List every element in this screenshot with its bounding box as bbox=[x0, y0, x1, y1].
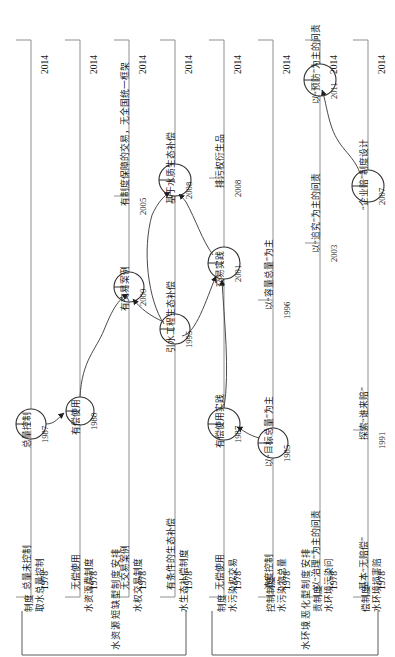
start-label-lane-6: 以“治理”为主的问责 bbox=[312, 510, 321, 590]
event-label-lane-7-0: 探索“谁来赔” bbox=[360, 387, 369, 440]
event-year-2003-lane-6: 2003 bbox=[330, 245, 339, 262]
bracket-group-0 bbox=[22, 611, 186, 655]
event-year-1987-lane-0: 1987 bbox=[41, 426, 50, 443]
end-year-lane-1: 2014 bbox=[90, 55, 100, 74]
event-year-1985-lane-5: 1985 bbox=[283, 445, 292, 462]
event-label-lane-6-1: 以“预防”为主的问责 bbox=[312, 24, 321, 104]
event-label-lane-4-1: 交易实践 bbox=[216, 251, 225, 287]
event-label-lane-0-0: 总量控制 bbox=[23, 412, 32, 448]
group-label-0: 水资源短缺型制度安排 bbox=[112, 548, 121, 650]
end-year-lane-2: 2014 bbox=[139, 55, 149, 74]
event-label-lane-4-2: 排污权衍生品 bbox=[216, 134, 225, 188]
end-year-lane-7: 2014 bbox=[378, 55, 388, 74]
event-year-2008-lane-3: 2008 bbox=[185, 182, 194, 199]
start-label-lane-1: 无偿使用 bbox=[72, 554, 81, 590]
event-label-lane-4-0: 有偿使用实践 bbox=[216, 394, 225, 448]
event-year-2005-lane-2: 2005 bbox=[139, 198, 148, 215]
event-year-2007-lane-7: 2007 bbox=[378, 188, 387, 205]
row-name-line2-lane-4: 制度 bbox=[218, 594, 227, 612]
row-name-line1-lane-4: 水污染权交易 bbox=[229, 558, 238, 612]
start-label-lane-4: 无偿使用 bbox=[216, 554, 225, 590]
event-year-2008-lane-4: 2008 bbox=[234, 180, 243, 197]
row-name-line1-lane-0: 取水总量控制 bbox=[36, 558, 45, 612]
event-year-1996-lane-5: 1996 bbox=[283, 302, 292, 319]
timeline-diagram: 20141978总量未控制1987总量控制取水总量控制制度20141978无偿使… bbox=[0, 0, 395, 657]
group-label-1: 水环境恶化型制度安排 bbox=[302, 548, 311, 650]
end-year-lane-0: 2014 bbox=[41, 55, 51, 74]
event-label-lane-7-1: “企业赔”制度设计 bbox=[360, 139, 369, 210]
start-label-lane-2: 无交易案例 bbox=[121, 545, 130, 590]
event-label-lane-2-0: 有交易案例 bbox=[121, 266, 130, 311]
event-label-lane-2-1: 有制度保障的交易，无全国统一框架 bbox=[121, 62, 130, 206]
bracket-group-1 bbox=[212, 611, 378, 655]
event-year-1988-lane-1: 1988 bbox=[90, 413, 99, 430]
event-year-2000-lane-2: 2000 bbox=[139, 289, 148, 306]
event-year-1991-lane-7: 1991 bbox=[378, 432, 387, 449]
row-name-line1-lane-2: 水权交易制度 bbox=[134, 558, 143, 612]
row-name-line1-lane-3: 水生态补偿制度 bbox=[180, 549, 189, 612]
end-year-lane-4: 2014 bbox=[234, 55, 244, 74]
event-year-1995-lane-3: 1995 bbox=[185, 331, 194, 348]
row-name-line1-lane-1: 水资源费制度 bbox=[85, 558, 94, 612]
row-name-line1-lane-5: 水污染物总量 bbox=[278, 558, 287, 612]
end-year-lane-3: 2014 bbox=[185, 55, 195, 74]
event-year-1987-lane-4: 1987 bbox=[234, 426, 243, 443]
event-label-lane-5-0: 以“目标总量”为主 bbox=[265, 396, 274, 467]
start-label-lane-7: 基本“无赔偿” bbox=[360, 537, 369, 590]
row-name-line1-lane-6: 水环境污染问 bbox=[325, 558, 334, 612]
row-name-line2-lane-0: 制度 bbox=[25, 594, 34, 612]
event-label-lane-1-0: 有偿使用 bbox=[72, 399, 81, 435]
end-year-lane-5: 2014 bbox=[283, 55, 293, 74]
start-label-lane-0: 总量未控制 bbox=[23, 545, 32, 590]
event-label-lane-6-0: 以“追究”为主的问责 bbox=[312, 173, 321, 253]
row-name-line1-lane-7: 水环境损害赔 bbox=[373, 558, 382, 612]
row-name-line2-lane-7: 偿制度 bbox=[362, 585, 371, 612]
event-label-lane-5-1: 以“容量总量”为主 bbox=[265, 239, 274, 310]
event-label-lane-3-0: 引水工程生态补偿 bbox=[167, 281, 176, 353]
event-year-2001-lane-4: 2001 bbox=[234, 265, 243, 282]
event-label-lane-3-1: 基于水质生态补偿 bbox=[167, 132, 176, 204]
start-label-lane-3: 有条件的生态补偿 bbox=[167, 518, 176, 590]
row-name-line2-lane-5: 控制制度 bbox=[267, 576, 276, 612]
row-name-line2-lane-6: 责制度 bbox=[314, 585, 323, 612]
event-year-2011-lane-6: 2011 bbox=[330, 82, 339, 99]
end-year-lane-6: 2014 bbox=[330, 55, 340, 74]
